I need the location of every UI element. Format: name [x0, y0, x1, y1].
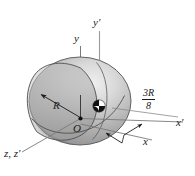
- offset-arrow-connector: [122, 135, 124, 143]
- origin-dot: [78, 116, 82, 120]
- y-prime-axis-label: y': [93, 17, 100, 28]
- radius-label: R: [53, 100, 60, 111]
- offset-fraction: 3R 8: [142, 88, 155, 111]
- figure-container: y y' x' x z, z' O R 3R 8: [0, 0, 195, 176]
- offset-arrow-upper: [124, 124, 142, 135]
- offset-dimension-label: 3R 8: [142, 88, 155, 111]
- origin-label: O: [73, 123, 81, 134]
- y-axis-label: y: [74, 33, 79, 44]
- offset-denominator: 8: [142, 101, 155, 112]
- offset-numerator: 3R: [142, 88, 155, 99]
- mass-center-marker: [93, 100, 105, 112]
- z-axes-label: z, z': [4, 148, 20, 159]
- x-axis-label: x: [143, 136, 148, 147]
- x-prime-axis-label: x': [176, 117, 183, 128]
